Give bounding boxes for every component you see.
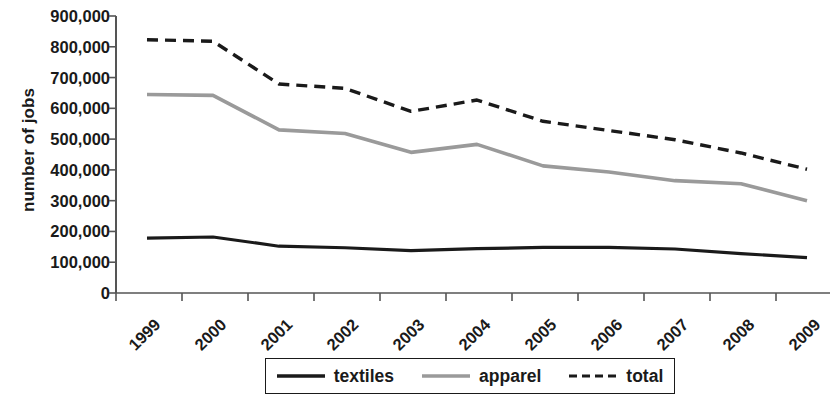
line-solid-black-swatch [277, 370, 325, 382]
legend-item-apparel[interactable]: apparel [408, 366, 555, 387]
chart-plot-area [0, 0, 830, 398]
series-line-textiles [147, 237, 807, 258]
chart-legend: textilesappareltotal [265, 358, 675, 394]
legend-label: total [626, 366, 663, 387]
legend-item-textiles[interactable]: textiles [263, 366, 408, 387]
line-dashed-black-swatch [569, 370, 617, 382]
legend-label: apparel [479, 366, 541, 387]
chart-figure: number of jobs 0100,000200,000300,000400… [0, 0, 830, 398]
legend-item-total[interactable]: total [555, 366, 677, 387]
series-line-total [147, 40, 807, 170]
legend-label: textiles [334, 366, 394, 387]
line-solid-gray-swatch [422, 370, 470, 382]
